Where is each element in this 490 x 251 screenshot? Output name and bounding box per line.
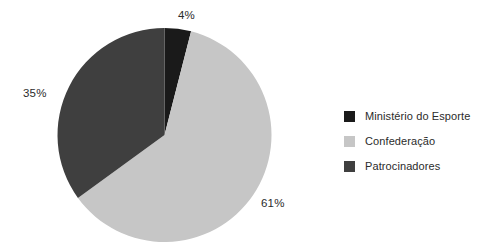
legend-label-confederacao: Confederação bbox=[365, 136, 435, 147]
legend-item-ministerio-do-esporte[interactable]: Ministério do Esporte bbox=[344, 104, 490, 129]
pie-label-confederacao: 61% bbox=[261, 198, 285, 210]
chart-page: 4% 35% 61% Ministério do Esporte Confede… bbox=[0, 0, 490, 251]
pie-label-patrocinadores: 35% bbox=[23, 88, 47, 100]
pie-label-ministerio-do-esporte: 4% bbox=[178, 10, 195, 22]
legend-label-ministerio-do-esporte: Ministério do Esporte bbox=[365, 111, 470, 122]
legend-swatch-icon-ministerio-do-esporte bbox=[344, 111, 355, 122]
pie-chart-svg bbox=[0, 0, 330, 251]
legend-swatch-icon-confederacao bbox=[344, 136, 355, 147]
legend-item-patrocinadores[interactable]: Patrocinadores bbox=[344, 154, 490, 179]
legend-item-confederacao[interactable]: Confederação bbox=[344, 129, 490, 154]
chart-legend: Ministério do Esporte Confederação Patro… bbox=[344, 104, 490, 179]
legend-label-patrocinadores: Patrocinadores bbox=[365, 161, 440, 172]
pie-chart-figure: 4% 35% 61% bbox=[0, 0, 330, 251]
legend-swatch-icon-patrocinadores bbox=[344, 161, 355, 172]
